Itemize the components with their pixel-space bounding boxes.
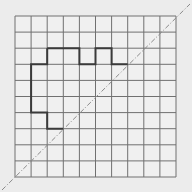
grid-diagram <box>0 0 192 192</box>
